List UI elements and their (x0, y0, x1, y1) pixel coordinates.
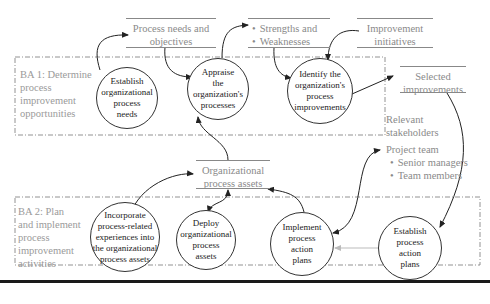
process-implement-action-plans: Implement process action plans (270, 212, 334, 276)
process-line: plans (394, 259, 427, 270)
process-line: process assets (93, 254, 158, 265)
store-line: Weaknesses (252, 35, 330, 48)
stakeholder-member: Team members (386, 169, 468, 182)
store-line: process assets (196, 177, 270, 190)
ba1-label-line: BA 1: Determine (20, 68, 92, 81)
stakeholders-title: stakeholders (386, 126, 468, 139)
process-line: assets (180, 251, 231, 262)
bottom-rule (0, 280, 490, 283)
store-line: Selected (400, 70, 466, 83)
ba1-label: BA 1: Determine process improvement oppo… (20, 68, 92, 120)
store-improvement-initiatives: Improvement initiatives (357, 18, 433, 48)
ba2-label-line: process (18, 231, 81, 244)
stakeholder-member: Senior managers (386, 156, 468, 169)
process-line: Deploy (180, 218, 231, 229)
process-line: improvements (294, 102, 346, 113)
stakeholders-title: Relevant (386, 113, 468, 126)
process-line: Incorporate (93, 210, 158, 221)
store-organizational-process-assets: Organizational process assets (196, 160, 270, 189)
process-establish-organizational-process-needs: Establish organizational process needs (96, 67, 158, 129)
process-line: process (283, 233, 322, 244)
process-line: Appraise (193, 67, 243, 78)
process-line: organization's (193, 89, 243, 100)
ba2-label-line: BA 2: Plan (18, 205, 81, 218)
store-line: Organizational (196, 164, 270, 177)
process-line: organizational (180, 229, 231, 240)
process-line: action (394, 248, 427, 259)
process-line: the (193, 78, 243, 89)
ba2-label-line: improvement (18, 244, 81, 257)
process-line: needs (101, 109, 152, 120)
process-appraise-processes: Appraise the organization's processes (187, 58, 249, 120)
process-line: action (283, 244, 322, 255)
process-line: process (294, 91, 346, 102)
ba1-label-line: process (20, 81, 92, 94)
store-line: objectives (126, 35, 216, 48)
process-line: processes (193, 100, 243, 111)
process-line: process (394, 237, 427, 248)
ba1-label-line: opportunities (20, 107, 92, 120)
process-establish-action-plans: Establish process action plans (378, 216, 442, 280)
store-process-needs: Process needs and objectives (126, 18, 216, 48)
process-line: process-related (93, 221, 158, 232)
process-deploy-assets: Deploy organizational process assets (176, 210, 236, 270)
process-line: experiences into (93, 232, 158, 243)
process-line: Implement (283, 222, 322, 233)
relevant-stakeholders: Relevant stakeholders Project team Senio… (386, 113, 468, 182)
ba2-label-line: and implement (18, 218, 81, 231)
store-line: Improvement (357, 22, 433, 35)
process-line: process (101, 98, 152, 109)
process-improvement-diagram: BA 1: Determine process improvement oppo… (0, 0, 490, 304)
process-line: process (180, 240, 231, 251)
ba2-label-line: activities (18, 257, 81, 270)
process-line: plans (283, 255, 322, 266)
store-strengths-weaknesses: Strengths and Weaknesses (248, 18, 330, 48)
ba1-label-line: improvement (20, 94, 92, 107)
process-line: Establish (394, 226, 427, 237)
process-line: organizational (101, 87, 152, 98)
process-line: Identify the (294, 69, 346, 80)
stakeholders-group: Project team (386, 143, 468, 156)
process-line: the organizational (93, 243, 158, 254)
store-line: Strengths and (252, 22, 330, 35)
store-line: initiatives (357, 35, 433, 48)
process-line: Establish (101, 76, 152, 87)
store-selected-improvements: Selected improvements (400, 66, 466, 93)
ba2-label: BA 2: Plan and implement process improve… (18, 205, 81, 270)
process-line: organization's (294, 80, 346, 91)
process-incorporate-experiences: Incorporate process-related experiences … (90, 202, 160, 272)
store-line: improvements (400, 83, 466, 96)
process-identify-improvements: Identify the organization's process impr… (287, 58, 353, 124)
store-line: Process needs and (126, 22, 216, 35)
